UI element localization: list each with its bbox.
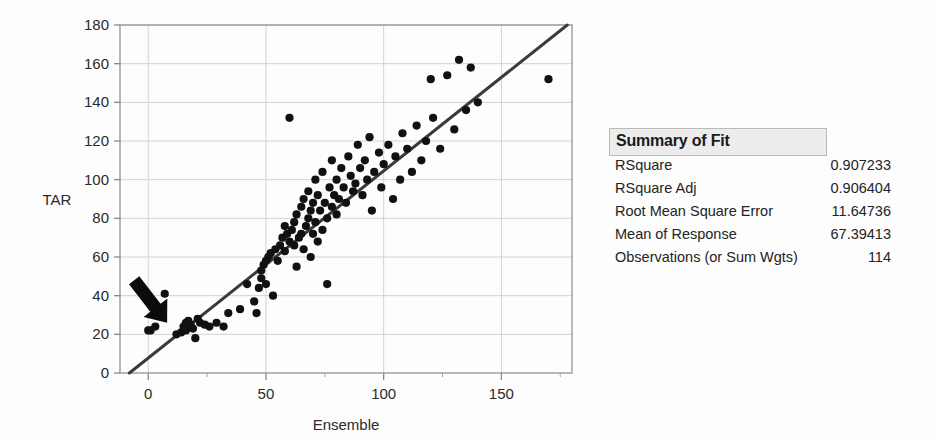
scatter-point [365,133,373,141]
scatter-point [328,203,336,211]
scatter-point [342,199,350,207]
scatter-point [290,218,298,226]
scatter-point [219,323,227,331]
summary-of-fit-row-value: 0.906404 [831,180,895,196]
scatter-point [455,56,463,64]
summary-of-fit-row-value: 0.907233 [831,157,895,173]
scatter-point [344,152,352,160]
scatter-point [398,129,406,137]
scatter-point [377,183,385,191]
scatter-point [328,156,336,164]
y-axis-tick-label: 100 [84,171,109,188]
y-axis-tick-label: 140 [84,93,109,110]
scatter-point [384,141,392,149]
scatter-point [288,226,296,234]
scatter-point [281,222,289,230]
scatter-point [323,214,331,222]
summary-of-fit-title: Summary of Fit [616,132,730,149]
summary-of-fit-row: RSquare Adj0.906404 [609,179,895,202]
scatter-point [408,168,416,176]
scatter-point [349,187,357,195]
summary-of-fit-row: Observations (or Sum Wgts)114 [609,248,895,271]
scatter-point [370,168,378,176]
scatter-point [281,247,289,255]
scatter-point [403,145,411,153]
scatter-point [389,195,397,203]
scatter-point [363,176,371,184]
scatter-point [292,210,300,218]
scatter-point [250,297,258,305]
scatter-point [332,176,340,184]
scatter-point [340,183,348,191]
scatter-point [297,203,305,211]
scatter-point [462,106,470,114]
scatter-point [314,191,322,199]
scatter-point [304,187,312,195]
scatter-point [316,207,324,215]
summary-of-fit-row: Mean of Response67.39413 [609,225,895,248]
x-axis-tick-label: 0 [144,385,152,402]
scatter-point [436,145,444,153]
y-axis-tick-label: 160 [84,55,109,72]
scatter-point [297,230,305,238]
scatter-point [450,125,458,133]
scatter-point [332,210,340,218]
scatter-point [307,207,315,215]
x-axis-tick-label: 100 [371,385,396,402]
scatter-point [255,284,263,292]
summary-of-fit-rows: RSquare0.907233RSquare Adj0.906404Root M… [609,156,895,271]
y-axis-tick-label: 20 [92,325,109,342]
scatter-point [443,71,451,79]
scatter-point [544,75,552,83]
scatter-point [474,98,482,106]
scatter-point [391,152,399,160]
scatter-point [300,195,308,203]
scatter-point [325,183,333,191]
y-axis-tick-label: 180 [84,16,109,33]
x-axis-tick-label: 50 [258,385,275,402]
scatter-point [318,226,326,234]
scatter-point [236,305,244,313]
scatter-point [417,156,425,164]
scatter-point [205,323,213,331]
scatter-point [396,176,404,184]
scatter-point [300,245,308,253]
scatter-point [323,280,331,288]
scatter-point [427,75,435,83]
scatter-point [252,309,260,317]
scatter-point [354,141,362,149]
scatter-point [212,319,220,327]
scatter-point [361,156,369,164]
scatter-point [189,324,197,332]
scatter-point [151,323,159,331]
summary-of-fit-row: RSquare0.907233 [609,156,895,179]
scatter-point [262,280,270,288]
scatter-point [467,63,475,71]
scatter-point [351,179,359,187]
scatter-point [429,114,437,122]
scatter-point [311,218,319,226]
regression-plot-panel: 020406080100120140160180050100150 TAR En… [0,0,600,442]
scatter-point [304,214,312,222]
scatter-point [274,257,282,265]
scatter-point [285,114,293,122]
scatter-point [358,191,366,199]
scatter-point [269,292,277,300]
summary-of-fit-row-value: 114 [868,249,895,265]
y-axis-tick-label: 120 [84,132,109,149]
scatter-point [422,137,430,145]
summary-of-fit-row-label: RSquare Adj [615,180,696,196]
y-axis-tick-label: 0 [101,364,109,381]
scatter-point [161,290,169,298]
scatter-point [375,149,383,157]
scatter-point [356,164,364,172]
y-axis-title: TAR [43,191,72,208]
x-axis-title: Ensemble [313,416,380,433]
scatter-point [290,241,298,249]
scatter-point [191,334,199,342]
y-axis-tick-label: 60 [92,248,109,265]
summary-of-fit-row-label: RSquare [615,157,672,173]
summary-of-fit-row-label: Root Mean Square Error [615,203,773,219]
summary-of-fit-row: Root Mean Square Error11.64736 [609,202,895,225]
scatter-point [311,176,319,184]
